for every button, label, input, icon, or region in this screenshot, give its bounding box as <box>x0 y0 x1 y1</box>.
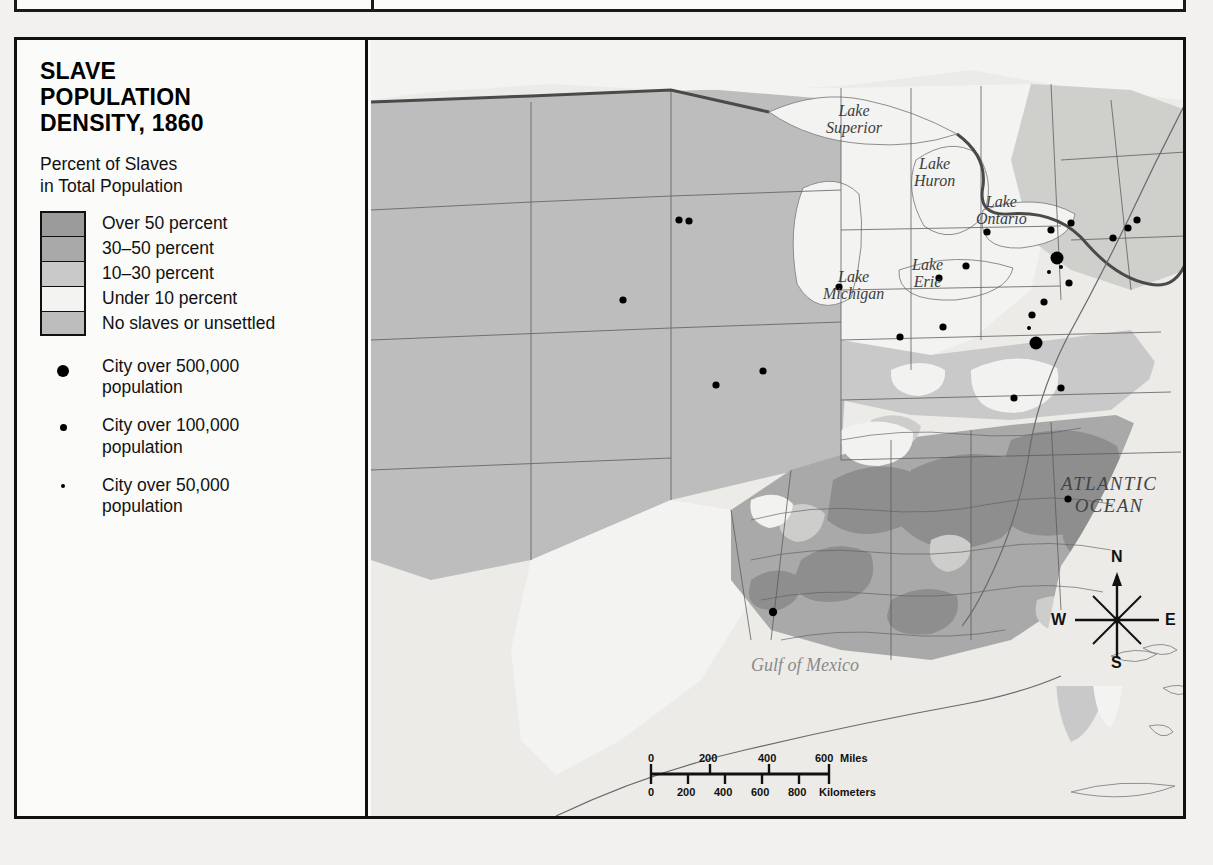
compass-rose: N S W E <box>1073 550 1161 670</box>
city-dot-medium <box>939 323 946 330</box>
page-title: SLAVE POPULATION DENSITY, 1860 <box>40 58 351 136</box>
title-line-1: SLAVE <box>40 58 351 84</box>
city-legend-label: City over 50,000population <box>102 475 229 518</box>
scale-km-tick-3: 600 <box>751 786 769 798</box>
city-dot-medium <box>1067 219 1074 226</box>
compass-north-label: N <box>1111 548 1123 566</box>
density-swatch <box>40 211 86 236</box>
city-dot-medium <box>1109 234 1116 241</box>
city-dot-medium <box>935 274 942 281</box>
density-legend-label: Over 50 percent <box>102 213 227 234</box>
scale-km-tick-4: 800 <box>788 786 806 798</box>
compass-east-label: E <box>1165 611 1176 629</box>
city-dot-medium <box>1028 311 1035 318</box>
small-dot-icon <box>61 484 65 488</box>
density-swatch <box>40 311 86 336</box>
scale-miles-tick-0: 0 <box>648 752 654 764</box>
city-dot-medium <box>1057 384 1064 391</box>
city-dot-medium <box>759 367 766 374</box>
scale-km-tick-0: 0 <box>648 786 654 798</box>
medium-dot-icon <box>60 424 67 431</box>
density-swatch <box>40 236 86 261</box>
legend-subtitle: Percent of Slaves in Total Population <box>40 154 351 198</box>
scale-km-tick-2: 400 <box>714 786 732 798</box>
previous-figure-bottom-edge <box>14 0 1186 12</box>
panel-divider <box>371 0 374 9</box>
city-legend: City over 500,000populationCity over 100… <box>40 356 351 518</box>
city-dot-small <box>1059 265 1063 269</box>
city-legend-row: City over 100,000population <box>40 415 351 458</box>
density-swatch <box>40 286 86 311</box>
density-legend: Over 50 percent30–50 percent10–30 percen… <box>40 211 351 336</box>
subtitle-line-1: Percent of Slaves <box>40 154 351 176</box>
city-legend-label: City over 100,000population <box>102 415 239 458</box>
scale-miles-tick-3: 600 <box>815 752 833 764</box>
density-legend-label: 10–30 percent <box>102 263 214 284</box>
legend-panel: SLAVE POPULATION DENSITY, 1860 Percent o… <box>17 40 368 816</box>
city-dot-medium <box>1124 224 1131 231</box>
city-legend-line-1: City over 100,000 <box>102 415 239 436</box>
city-dot-cell <box>40 356 86 377</box>
subtitle-line-2: in Total Population <box>40 176 351 198</box>
city-dot-small <box>1027 326 1031 330</box>
city-legend-line-2: population <box>102 377 239 398</box>
city-legend-line-1: City over 50,000 <box>102 475 229 496</box>
city-legend-row: City over 50,000population <box>40 475 351 518</box>
city-legend-line-1: City over 500,000 <box>102 356 239 377</box>
city-legend-line-2: population <box>102 437 239 458</box>
city-dot-medium <box>983 228 990 235</box>
city-dot-medium <box>1040 298 1047 305</box>
city-legend-line-2: population <box>102 496 229 517</box>
title-line-2: POPULATION <box>40 84 351 110</box>
city-dot-medium <box>675 216 682 223</box>
scale-km-unit: Kilometers <box>819 786 876 798</box>
compass-west-label: W <box>1051 611 1066 629</box>
density-swatch <box>40 261 86 286</box>
city-legend-row: City over 500,000population <box>40 356 351 399</box>
density-legend-row: 10–30 percent <box>40 261 351 286</box>
large-dot-icon <box>57 365 69 377</box>
density-legend-label: Under 10 percent <box>102 288 237 309</box>
city-dot-medium <box>619 296 626 303</box>
lake-huron-shape <box>912 146 989 234</box>
density-legend-row: Under 10 percent <box>40 286 351 311</box>
city-legend-label: City over 500,000population <box>102 356 239 399</box>
city-dot-medium <box>835 283 842 290</box>
scale-miles-tick-1: 200 <box>699 752 717 764</box>
density-legend-row: 30–50 percent <box>40 236 351 261</box>
title-line-3: DENSITY, 1860 <box>40 110 351 136</box>
lake-michigan-shape <box>793 181 862 305</box>
north-arrow-head <box>1112 572 1122 586</box>
city-dot-medium <box>769 608 777 616</box>
united-states-map[interactable] <box>371 40 1183 816</box>
scale-miles-unit: Miles <box>840 752 868 764</box>
city-dot-medium <box>1047 226 1054 233</box>
scale-km-tick-1: 200 <box>677 786 695 798</box>
scale-miles-tick-2: 400 <box>758 752 776 764</box>
city-dot-medium <box>1065 279 1072 286</box>
city-dot-small <box>1047 270 1051 274</box>
map-figure: SLAVE POPULATION DENSITY, 1860 Percent o… <box>14 37 1186 819</box>
city-dot-medium <box>1133 216 1140 223</box>
city-dot-large <box>1030 337 1043 350</box>
density-legend-row: No slaves or unsettled <box>40 311 351 336</box>
scale-bar: 0 200 400 600 Miles 0 200 400 600 800 Ki… <box>647 746 862 808</box>
city-dot-medium <box>896 333 903 340</box>
city-dot-medium <box>962 262 969 269</box>
map-canvas[interactable]: Lake Superior Lake Huron Lake Ontario La… <box>371 40 1183 816</box>
city-dot-medium <box>1064 495 1071 502</box>
city-dot-medium <box>1010 394 1017 401</box>
density-legend-label: No slaves or unsettled <box>102 313 275 334</box>
city-dot-medium <box>685 217 692 224</box>
city-dot-large <box>1051 252 1064 265</box>
city-dot-cell <box>40 475 86 488</box>
city-dot-cell <box>40 415 86 431</box>
density-legend-row: Over 50 percent <box>40 211 351 236</box>
density-legend-label: 30–50 percent <box>102 238 214 259</box>
compass-south-label: S <box>1111 654 1122 672</box>
city-dot-medium <box>712 381 719 388</box>
